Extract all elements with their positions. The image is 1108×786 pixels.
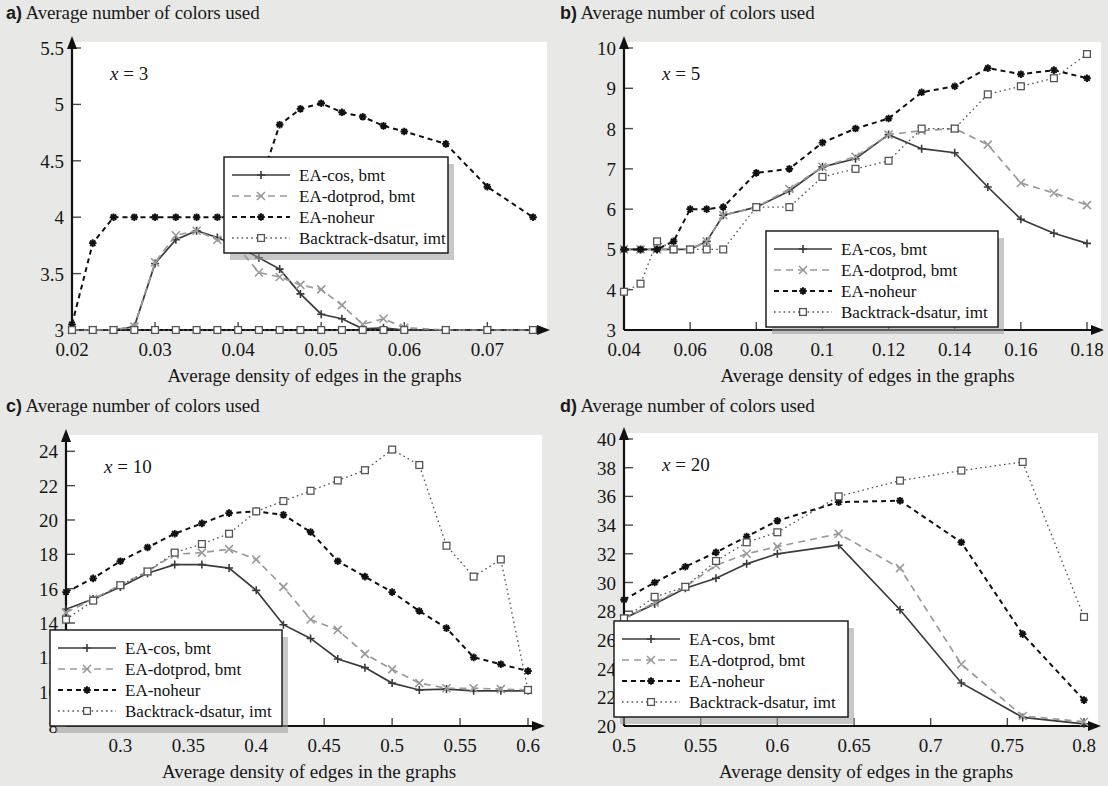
data-point-marker [819,174,826,181]
legend-label: EA-cos, bmt [299,166,385,185]
legend-label: EA-noheur [841,282,917,301]
data-point-marker [89,239,97,247]
data-point-marker [753,204,760,211]
data-point-marker [235,327,242,334]
data-point-marker [687,246,694,253]
data-point-marker [63,616,70,623]
legend-label: EA-noheur [299,208,375,227]
data-point-marker [524,667,532,675]
data-point-marker [151,213,159,221]
y-axis-tick-label: 38 [597,458,616,479]
legend-label: Backtrack-dsatur, imt [125,702,272,721]
annotation-value: = 10 [112,456,151,477]
data-point-marker [276,327,283,334]
data-point-marker [1084,51,1091,58]
y-axis-tick-label: 3 [55,320,65,341]
legend-label: EA-dotprod, bmt [125,660,241,679]
data-point-marker [131,327,138,334]
panel-a: a) Average number of colors used33.544.5… [0,0,554,393]
data-point-marker [637,280,644,287]
y-axis-tick-label: 3 [607,320,617,341]
data-point-marker [648,699,655,706]
y-axis-tick-label: 28 [597,601,616,622]
data-point-marker [951,82,959,90]
data-point-marker [359,327,366,334]
data-point-marker [334,557,342,565]
plot-area: 33.544.555.50.020.030.040.050.060.07x = … [0,0,554,393]
annotation-value: = 3 [118,63,148,84]
y-axis-tick-label: 6 [607,199,617,220]
y-axis-tick-label: 22 [39,476,58,497]
legend-label: Backtrack-dsatur, imt [841,303,988,322]
x-axis-tick-label: 0.06 [388,339,421,360]
legend-label: EA-dotprod, bmt [689,651,805,670]
panel-letter: c) [6,396,22,416]
panel-c: c) Average number of colors used81012141… [0,393,554,786]
data-point-marker [172,327,179,334]
data-point-marker [682,583,689,590]
data-point-marker [415,607,423,615]
data-point-marker [712,549,720,557]
panel-title: a) Average number of colors used [6,2,260,24]
panel-title-text: Average number of colors used [577,2,815,23]
data-point-marker [984,91,991,98]
y-axis-tick-label: 34 [597,515,617,536]
data-point-marker [1081,614,1088,621]
panel-title-text: Average number of colors used [22,2,260,23]
data-point-marker [318,327,325,334]
y-axis-tick-label: 18 [39,544,58,565]
y-axis-tick-label: 36 [597,486,616,507]
data-point-marker [338,108,346,116]
panel-title: c) Average number of colors used [6,395,260,417]
data-point-marker [651,579,659,587]
panel-annotation: x = 10 [103,456,152,477]
y-axis-tick-label: 30 [597,573,616,594]
data-point-marker [84,708,91,715]
x-axis-tick-label: 0.5 [612,735,636,756]
data-point-marker [257,213,265,221]
data-point-marker [89,327,96,334]
y-axis-tick-label: 22 [597,687,616,708]
data-point-marker [1019,459,1026,466]
panel-letter: b) [560,3,577,23]
data-point-marker [743,539,750,546]
x-axis-tick-label: 0.55 [443,735,476,756]
data-point-marker [654,238,661,245]
data-point-marker [380,122,388,130]
y-axis-tick-label: 20 [597,716,616,737]
data-point-marker [918,125,925,132]
data-point-marker [317,99,325,107]
data-point-marker [719,203,727,211]
data-point-marker [334,477,341,484]
data-point-marker [198,541,205,548]
data-point-marker [484,327,491,334]
data-point-marker [214,327,221,334]
x-axis-caption: Average density of edges in the graphs [720,365,1014,386]
data-point-marker [130,213,138,221]
data-point-marker [682,563,690,571]
x-axis-tick-label: 0.1 [811,339,835,360]
y-axis-tick-label: 7 [607,159,617,180]
y-axis-tick-label: 4.5 [40,151,64,172]
x-axis-tick-label: 0.65 [837,735,870,756]
y-axis-tick-label: 9 [607,78,617,99]
data-point-marker [339,327,346,334]
data-point-marker [951,125,958,132]
legend-label: EA-dotprod, bmt [841,261,957,280]
data-point-marker [497,556,504,563]
annotation-value: = 5 [670,63,700,84]
data-point-marker [307,487,314,494]
data-point-marker [852,125,860,133]
data-point-marker [774,517,782,525]
data-point-marker [362,467,369,474]
data-point-marker [152,327,159,334]
legend-label: Backtrack-dsatur, imt [689,693,836,712]
x-axis-tick-label: 0.55 [684,735,717,756]
panel-annotation: x = 5 [661,63,700,84]
x-axis-tick-label: 0.05 [305,339,338,360]
data-point-marker [297,105,305,113]
x-axis-tick-label: 0.04 [222,339,256,360]
panel-annotation: x = 3 [109,63,148,84]
data-point-marker [297,327,304,334]
legend-label: EA-cos, bmt [841,240,927,259]
